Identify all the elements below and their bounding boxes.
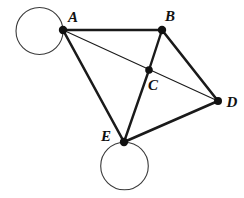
vertex-label-d: D bbox=[226, 94, 238, 110]
vertex-c[interactable] bbox=[145, 66, 153, 74]
graph-canvas: A B C D E bbox=[0, 0, 244, 198]
vertex-b[interactable] bbox=[158, 26, 166, 34]
vertex-label-b: B bbox=[164, 8, 175, 24]
vertex-a[interactable] bbox=[59, 26, 67, 34]
vertex-e[interactable] bbox=[120, 138, 128, 146]
loop-group bbox=[16, 8, 148, 190]
edge-b-d bbox=[162, 30, 218, 101]
loop-circle-e bbox=[101, 142, 149, 190]
vertex-label-e: E bbox=[100, 128, 111, 144]
edge-a-e bbox=[63, 30, 124, 142]
vertex-label-a: A bbox=[67, 9, 78, 25]
vertex-group bbox=[59, 26, 222, 146]
vertex-label-c: C bbox=[148, 77, 159, 93]
edge-a-d bbox=[63, 30, 218, 101]
edge-c-e bbox=[124, 70, 149, 142]
edge-e-d bbox=[124, 101, 218, 142]
edge-b-c bbox=[149, 30, 162, 70]
graph-figure: A B C D E bbox=[0, 0, 244, 198]
loop-circle-a bbox=[16, 8, 63, 55]
vertex-label-group: A B C D E bbox=[67, 8, 238, 144]
edge-group bbox=[63, 30, 218, 142]
vertex-d[interactable] bbox=[214, 97, 222, 105]
